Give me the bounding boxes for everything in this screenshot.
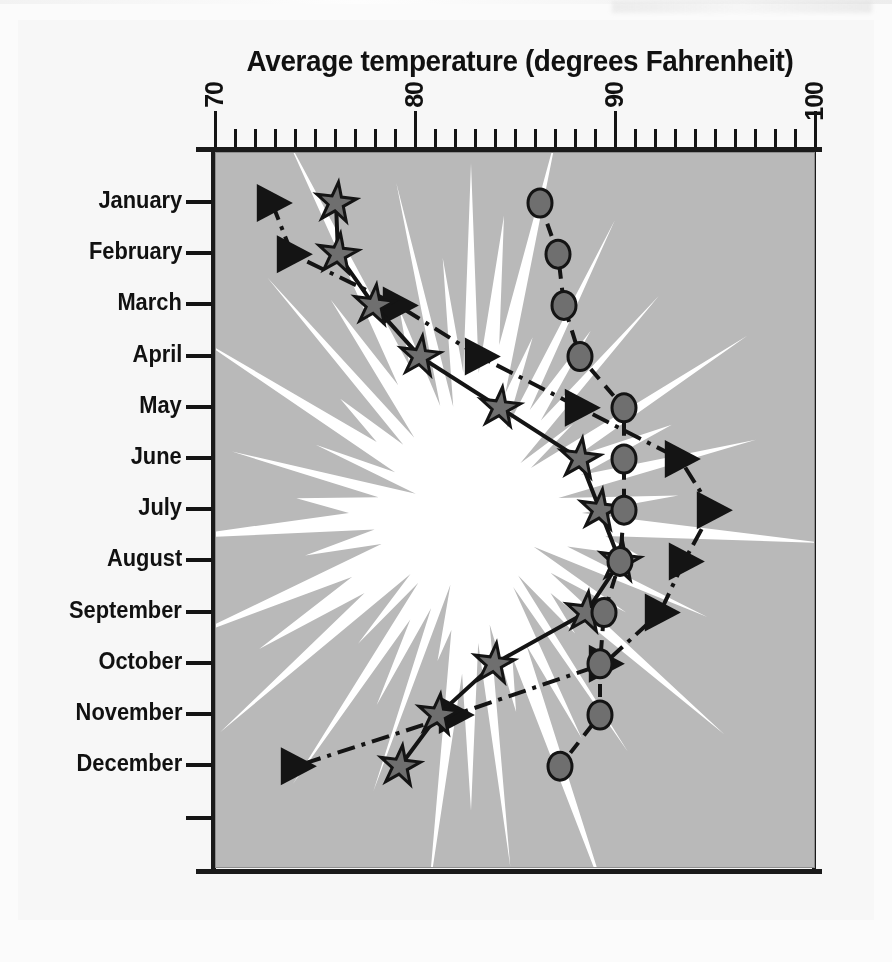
y-axis-label-november: November <box>75 699 182 726</box>
x-tick-minor <box>774 129 777 147</box>
y-axis-label-april: April <box>132 341 182 368</box>
x-tick-label: 70 <box>202 82 227 108</box>
x-tick-minor <box>434 129 437 147</box>
y-tick <box>186 507 212 511</box>
marker-circle-january <box>528 189 552 217</box>
series-layer <box>216 153 815 868</box>
x-axis-ticks <box>0 111 892 147</box>
x-tick-minor <box>594 129 597 147</box>
x-tick-minor <box>734 129 737 147</box>
y-axis-label-february: February <box>88 238 182 265</box>
y-axis-label-may: May <box>139 392 182 419</box>
y-axis-label-june: June <box>131 443 182 470</box>
y-tick-extra <box>186 816 212 820</box>
x-tick-minor <box>494 129 497 147</box>
marker-circle-august <box>608 547 632 575</box>
x-tick-minor <box>454 129 457 147</box>
y-axis-label-october: October <box>98 648 182 675</box>
x-tick-minor <box>514 129 517 147</box>
marker-star-may <box>481 387 521 426</box>
marker-triangle-right-may <box>565 389 601 427</box>
y-axis-label-december: December <box>76 750 182 777</box>
series-line-triangle-series <box>272 203 712 766</box>
marker-star-february <box>319 233 359 272</box>
marker-circle-july <box>612 496 636 524</box>
chart-page: Average temperature (degrees Fahrenheit)… <box>0 0 892 962</box>
marker-circle-march <box>552 291 576 319</box>
marker-circle-december <box>548 752 572 780</box>
x-tick-major <box>414 111 417 147</box>
marker-triangle-right-june <box>665 440 701 478</box>
x-tick-minor <box>694 129 697 147</box>
y-tick <box>186 251 212 255</box>
x-tick-label: 80 <box>402 82 427 108</box>
x-tick-label: 90 <box>602 82 627 108</box>
chart-title: Average temperature (degrees Fahrenheit) <box>236 44 803 78</box>
x-tick-minor <box>714 129 717 147</box>
marker-circle-february <box>546 240 570 268</box>
x-tick-minor <box>574 129 577 147</box>
marker-circle-september <box>592 599 616 627</box>
marker-circle-may <box>612 394 636 422</box>
marker-circle-april <box>568 343 592 371</box>
x-tick-minor <box>314 129 317 147</box>
y-tick <box>186 610 212 614</box>
marker-star-june <box>561 438 601 477</box>
y-tick <box>186 354 212 358</box>
x-tick-minor <box>394 129 397 147</box>
marker-triangle-right-august <box>669 542 705 580</box>
x-tick-minor <box>254 129 257 147</box>
x-tick-minor <box>234 129 237 147</box>
x-tick-minor <box>754 129 757 147</box>
plot-area <box>215 152 815 868</box>
marker-triangle-right-january <box>257 184 293 222</box>
x-tick-minor <box>634 129 637 147</box>
y-axis-label-july: July <box>138 494 182 521</box>
x-tick-minor <box>474 129 477 147</box>
marker-circle-october <box>588 650 612 678</box>
marker-circle-november <box>588 701 612 729</box>
x-tick-minor <box>794 129 797 147</box>
y-tick <box>186 405 212 409</box>
marker-triangle-right-july <box>697 491 733 529</box>
x-tick-minor <box>654 129 657 147</box>
y-tick <box>186 302 212 306</box>
x-tick-major <box>614 111 617 147</box>
y-tick <box>186 712 212 716</box>
y-axis-label-september: September <box>69 597 182 624</box>
x-tick-minor <box>274 129 277 147</box>
x-tick-major <box>214 111 217 147</box>
x-tick-minor <box>334 129 337 147</box>
x-tick-minor <box>554 129 557 147</box>
marker-circle-june <box>612 445 636 473</box>
marker-star-october <box>475 643 515 682</box>
scan-text-fragment <box>612 1 872 13</box>
y-tick <box>186 763 212 767</box>
marker-triangle-right-april <box>465 338 501 376</box>
y-tick <box>186 661 212 665</box>
x-tick-minor <box>534 129 537 147</box>
axis-line-bottom <box>196 869 822 874</box>
x-tick-minor <box>354 129 357 147</box>
y-axis-label-january: January <box>98 187 182 214</box>
marker-star-december <box>381 745 421 784</box>
marker-triangle-right-february <box>277 235 313 273</box>
y-axis-label-august: August <box>107 545 182 572</box>
x-tick-major <box>814 111 817 147</box>
marker-triangle-right-december <box>281 747 317 785</box>
x-tick-minor <box>294 129 297 147</box>
y-axis-label-march: March <box>118 289 182 316</box>
y-tick <box>186 200 212 204</box>
x-tick-minor <box>374 129 377 147</box>
y-tick <box>186 456 212 460</box>
marker-triangle-right-september <box>645 594 681 632</box>
x-tick-minor <box>674 129 677 147</box>
y-tick <box>186 558 212 562</box>
